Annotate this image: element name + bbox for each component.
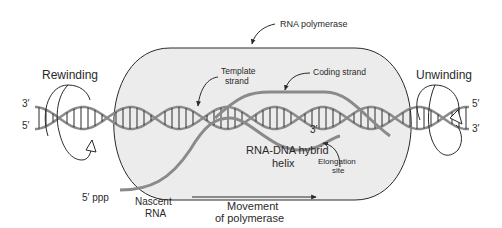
nascent-rna-label-2: RNA [145,208,166,219]
elongation-site-label-2: site [332,166,345,175]
hybrid-helix-label: RNA-DNA hybrid [246,144,329,156]
template-strand-label: Template [221,66,256,76]
rna-3prime-end-label: 3′ [310,124,318,135]
rna-polymerase-diagram: RNA polymerase Rewinding Unwinding Templ… [0,0,502,228]
right-3prime-label: 3′ [472,123,480,134]
hybrid-helix-label-2: helix [272,157,295,169]
coding-strand-label: Coding strand [313,67,366,77]
template-strand-label-2: strand [225,76,249,86]
left-3prime-label: 3′ [22,98,30,109]
elongation-site-label: Elongation [318,157,356,166]
unwinding-label: Unwinding [416,68,472,82]
left-5prime-label: 5′ [22,120,30,131]
diagram-canvas: RNA polymerase Rewinding Unwinding Templ… [0,0,502,228]
rna-polymerase-label: RNA polymerase [280,19,348,29]
rewinding-label: Rewinding [42,68,98,82]
five-prime-ppp-label: 5′ ppp [82,192,109,203]
rna-polymerase-callout-arrow [252,24,275,44]
movement-label-2: of polymerase [215,212,284,224]
nascent-rna-label: Nascent [135,196,172,207]
right-5prime-label: 5′ [472,98,480,109]
movement-label: Movement [227,200,278,212]
